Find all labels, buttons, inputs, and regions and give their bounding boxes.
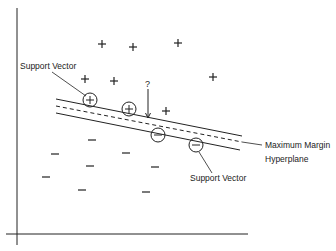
margin-lines (56, 99, 242, 150)
positive-points (81, 39, 217, 115)
axes (6, 8, 248, 245)
plus-icon (129, 43, 137, 51)
query-arrow (146, 89, 151, 118)
leader-lines (52, 72, 262, 173)
leader-support-vector-top (52, 72, 86, 96)
upper-margin-line (56, 99, 242, 136)
max-margin-label: Maximum Margin (265, 141, 330, 150)
query-mark: ? (145, 80, 150, 89)
plus-icon (174, 39, 182, 47)
leader-support-vector-bottom (199, 152, 212, 173)
leader-hyperplane (242, 142, 262, 145)
hyperplane-label: Hyperplane (265, 155, 308, 164)
support-vector-label-bottom: Support Vector (190, 174, 246, 183)
plus-icon (162, 107, 170, 115)
plus-icon (98, 40, 106, 48)
circled-plus-icon (86, 96, 94, 104)
support-vector-label-top: Support Vector (20, 62, 76, 71)
plus-icon (209, 73, 217, 81)
negative-points (42, 140, 159, 192)
hyperplane-line (56, 106, 242, 142)
svm-diagram (0, 0, 336, 251)
circled-plus-icon (125, 105, 133, 113)
plus-icon (110, 77, 118, 85)
plus-icon (81, 75, 89, 83)
